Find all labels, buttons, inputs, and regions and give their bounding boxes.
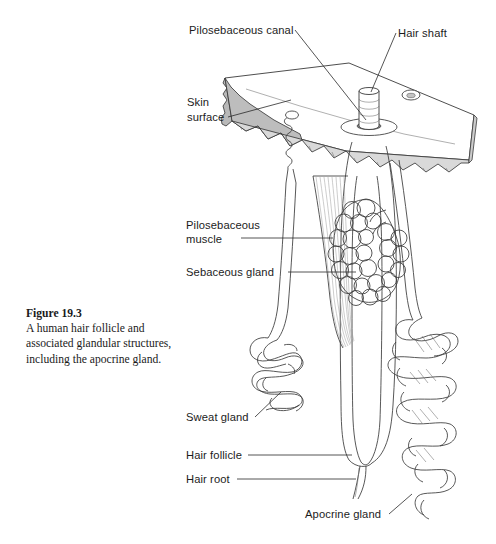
label-hair-shaft: Hair shaft [398, 27, 448, 39]
sweat-gland-coil [250, 183, 303, 411]
figure-19-3: Pilosebaceous canal Hair shaft Skin surf… [0, 0, 496, 544]
figure-caption: Figure 19.3 A human hair follicle and as… [26, 306, 194, 367]
secondary-pore [402, 90, 420, 100]
sweat-gland-tubules [250, 338, 303, 411]
apocrine-gland-coil [388, 160, 458, 519]
apocrine-tubules [388, 318, 458, 519]
label-pilosebaceous-muscle-line1: Pilosebaceous [186, 219, 260, 231]
skin-slab [221, 63, 477, 175]
hair-follicle-diagram: Pilosebaceous canal Hair shaft Skin surf… [0, 0, 496, 544]
label-hair-root: Hair root [186, 473, 231, 485]
hair-root-tail [353, 466, 366, 499]
leader-apocrine-gland [389, 494, 412, 514]
label-pilosebaceous-canal: Pilosebaceous canal [189, 24, 294, 36]
figure-caption-title: Figure 19.3 [26, 306, 194, 321]
label-hair-follicle: Hair follicle [186, 449, 242, 461]
hair-shaft-cylinder [359, 88, 379, 130]
leader-sweat-gland [255, 392, 281, 417]
label-sebaceous-gland: Sebaceous gland [186, 266, 274, 278]
label-sweat-gland: Sweat gland [186, 411, 249, 423]
hair-follicle-shaft [340, 142, 396, 466]
skin-top-surface [225, 63, 474, 160]
figure-caption-body: A human hair follicle and associated gla… [26, 321, 194, 367]
label-skin-surface-line2: surface [187, 111, 224, 123]
label-skin-surface-line1: Skin [187, 96, 209, 108]
label-pilosebaceous-muscle-line2: muscle [186, 233, 222, 245]
label-apocrine-gland: Apocrine gland [305, 508, 381, 520]
